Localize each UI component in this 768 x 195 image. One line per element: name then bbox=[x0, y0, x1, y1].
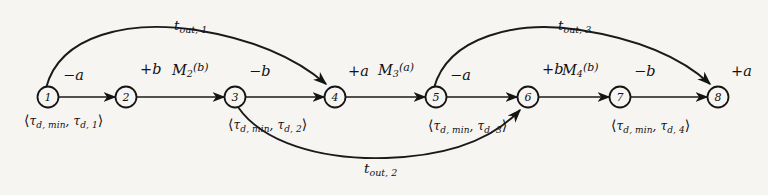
delay-node-7-idx: d, 4 bbox=[667, 125, 685, 135]
sign-node-1: −a bbox=[63, 68, 84, 83]
sign-node-6: +b bbox=[542, 62, 564, 77]
delay-node-5-min: d, min bbox=[440, 125, 469, 135]
timeout-1-label: tout, 1 bbox=[174, 19, 207, 34]
node-6-label: 6 bbox=[525, 91, 532, 104]
node-8[interactable]: 8 bbox=[708, 87, 729, 108]
marking-m4: M4(b) bbox=[562, 62, 599, 79]
marking-m2: M2(b) bbox=[172, 62, 209, 79]
sign-node-7: −b bbox=[634, 64, 656, 79]
delay-node-7: ⟨τd, min, τd, 4⟩ bbox=[611, 118, 690, 135]
delay-node-5: ⟨τd, min, τd, 3⟩ bbox=[428, 118, 507, 135]
node-5-label: 5 bbox=[433, 91, 440, 104]
sign-node-4: +a bbox=[348, 64, 369, 79]
delay-node-1: ⟨τd, min, τd, 1⟩ bbox=[24, 113, 103, 130]
delay-node-1-min: d, min bbox=[36, 120, 65, 130]
delay-node-7-min: d, min bbox=[623, 125, 652, 135]
delay-node-3: ⟨τd, min, τd, 2⟩ bbox=[228, 117, 307, 134]
node-8-label: 8 bbox=[715, 91, 722, 104]
node-1-label: 1 bbox=[45, 91, 52, 104]
delay-node-5-close: ⟩ bbox=[502, 117, 508, 133]
delay-node-7-close: ⟩ bbox=[685, 117, 691, 133]
marking-m2-base: M bbox=[172, 62, 187, 78]
marking-m3-arg: (a) bbox=[399, 61, 414, 74]
node-1[interactable]: 1 bbox=[38, 87, 59, 108]
marking-m3: M3(a) bbox=[378, 62, 414, 79]
timeout-3-sub: out, 3 bbox=[563, 24, 591, 35]
node-7[interactable]: 7 bbox=[610, 87, 631, 108]
node-6[interactable]: 6 bbox=[518, 87, 539, 108]
timeout-arc-3 bbox=[434, 27, 710, 88]
sign-node-5: −a bbox=[450, 68, 471, 83]
marking-m4-base: M bbox=[562, 62, 577, 78]
delay-node-3-close: ⟩ bbox=[302, 116, 308, 132]
timeout-2-label: tout, 2 bbox=[364, 162, 397, 177]
sign-node-8: +a bbox=[731, 64, 752, 79]
node-4[interactable]: 4 bbox=[325, 87, 346, 108]
delay-node-1-idx: d, 1 bbox=[80, 120, 98, 130]
sign-node-2: +b bbox=[140, 62, 162, 77]
sign-node-3: −b bbox=[249, 64, 271, 79]
node-3-label: 3 bbox=[232, 91, 239, 104]
node-2[interactable]: 2 bbox=[116, 87, 137, 108]
node-5[interactable]: 5 bbox=[426, 87, 447, 108]
timeout-1-sub: out, 1 bbox=[179, 24, 207, 35]
node-3[interactable]: 3 bbox=[225, 87, 246, 108]
delay-node-3-idx: d, 2 bbox=[284, 124, 302, 134]
delay-node-3-min: d, min bbox=[240, 124, 269, 134]
marking-m3-base: M bbox=[378, 62, 393, 78]
node-2-label: 2 bbox=[122, 91, 130, 104]
marking-m2-arg: (b) bbox=[193, 61, 209, 74]
marking-m4-arg: (b) bbox=[583, 61, 599, 74]
delay-node-1-close: ⟩ bbox=[98, 112, 104, 128]
delay-node-5-idx: d, 3 bbox=[484, 125, 502, 135]
timeout-3-label: tout, 3 bbox=[558, 19, 591, 34]
node-7-label: 7 bbox=[617, 91, 624, 104]
timeout-2-sub: out, 2 bbox=[369, 167, 397, 178]
figure-canvas: 1 2 3 4 5 6 7 bbox=[0, 0, 768, 195]
node-4-label: 4 bbox=[331, 91, 339, 104]
